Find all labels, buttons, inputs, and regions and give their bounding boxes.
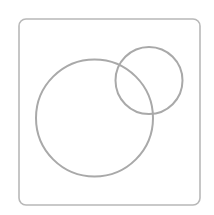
frame-rounded-rect: [19, 19, 200, 205]
small-circle: [116, 47, 183, 114]
venn-diagram: [0, 0, 214, 215]
venn-diagram-canvas: [0, 0, 214, 215]
large-circle: [36, 60, 153, 177]
